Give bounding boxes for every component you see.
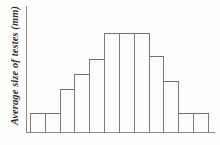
histogram-bar: [134, 33, 150, 133]
histogram-bar: [193, 113, 209, 133]
histogram-bar: [45, 113, 61, 133]
histogram-bar: [178, 113, 194, 133]
histogram-bar: [30, 113, 46, 133]
plot-area: [26, 6, 216, 134]
y-axis-label-container: Average size of testes (mm): [0, 0, 26, 145]
histogram-bar: [60, 89, 76, 133]
histogram-bar: [149, 56, 165, 133]
histogram-bar: [89, 59, 105, 133]
bar-series: [30, 7, 208, 133]
histogram-bar: [74, 74, 90, 133]
y-axis-label: Average size of testes (mm): [9, 5, 20, 127]
histogram-bar: [119, 33, 135, 133]
histogram-bar: [104, 33, 120, 133]
histogram-figure: Average size of testes (mm): [0, 0, 220, 145]
y-axis-line: [26, 6, 27, 133]
histogram-bar: [163, 81, 179, 133]
